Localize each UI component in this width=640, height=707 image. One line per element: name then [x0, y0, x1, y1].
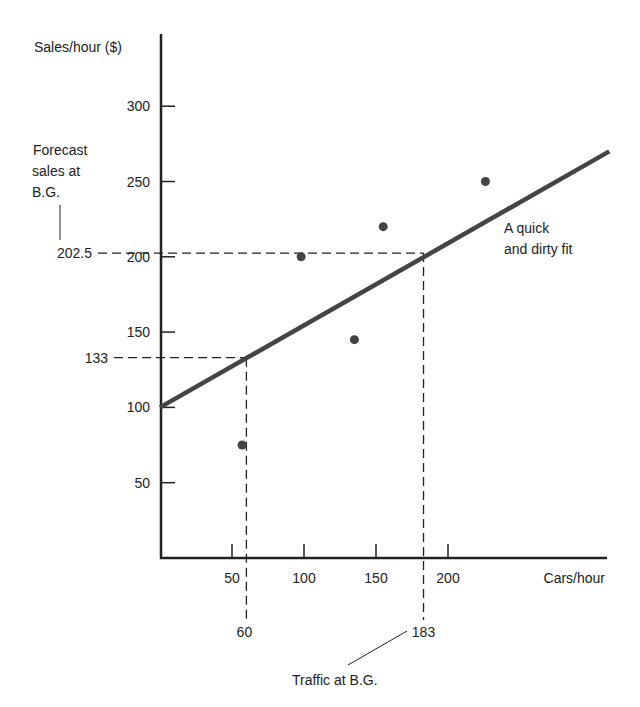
- y-axis-label: Sales/hour ($): [34, 39, 122, 55]
- x-tick-label: 150: [364, 570, 388, 586]
- annotation-133: 133: [85, 350, 109, 366]
- x-ticks: 50100150200: [224, 544, 460, 586]
- annotation-202-5: 202.5: [57, 245, 92, 261]
- data-point: [379, 222, 388, 231]
- x-tick-label: 100: [292, 570, 316, 586]
- x-tick-label: 50: [224, 570, 240, 586]
- svg-text:Forecast: Forecast: [33, 142, 88, 158]
- y-ticks: 50100150200250300: [127, 98, 175, 491]
- data-point: [350, 335, 359, 344]
- x-axis-label: Cars/hour: [544, 570, 606, 586]
- svg-text:sales at: sales at: [32, 163, 80, 179]
- svg-text:A quick: A quick: [504, 220, 550, 236]
- chart: Sales/hour ($) Cars/hour 501001502002503…: [0, 0, 640, 707]
- data-points: [238, 177, 490, 450]
- y-tick-label: 50: [134, 475, 150, 491]
- data-point: [238, 441, 247, 450]
- y-tick-label: 200: [127, 249, 151, 265]
- svg-text:B.G.: B.G.: [32, 184, 60, 200]
- y-tick-label: 300: [127, 98, 151, 114]
- traffic-callout: Traffic at B.G.: [292, 631, 407, 688]
- fit-callout: A quick and dirty fit: [504, 220, 573, 257]
- data-point: [297, 252, 306, 261]
- fit-line: [160, 151, 609, 407]
- svg-text:Traffic at B.G.: Traffic at B.G.: [292, 672, 378, 688]
- x-tick-label: 200: [436, 570, 460, 586]
- svg-text:and dirty fit: and dirty fit: [504, 241, 573, 257]
- y-tick-label: 250: [127, 174, 151, 190]
- guide-lines: [98, 253, 424, 620]
- data-point: [481, 177, 490, 186]
- annotation-60: 60: [237, 624, 253, 640]
- y-tick-label: 100: [127, 399, 151, 415]
- y-tick-label: 150: [127, 324, 151, 340]
- forecast-callout: Forecast sales at B.G.: [32, 142, 88, 240]
- annotation-183: 183: [412, 624, 436, 640]
